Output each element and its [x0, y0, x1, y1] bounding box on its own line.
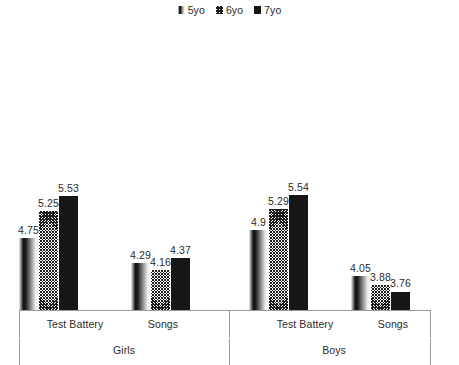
bar-5yo-group2[interactable] [131, 263, 150, 311]
bar-6yo-group1[interactable] [39, 211, 58, 311]
bar-6yo-group3[interactable] [269, 209, 288, 311]
axis-outer-label-2: Boys [274, 345, 394, 356]
bar-6yo-group2[interactable] [151, 270, 170, 311]
bar-chart: 5yo 6yo 7yo 4.755.255.534.294.164.374.95… [0, 0, 459, 365]
value-label-7yo-group3: 5.54 [283, 182, 314, 193]
bar-5yo-group3[interactable] [249, 230, 268, 311]
axis-band-divider [19, 338, 431, 339]
axis-inner-label-2: Songs [103, 319, 223, 330]
bar-7yo-group2[interactable] [171, 258, 190, 311]
plot-area: 4.755.255.534.294.164.374.95.295.544.053… [0, 20, 459, 311]
bar-5yo-group1[interactable] [19, 238, 38, 311]
legend-item-7yo[interactable]: 7yo [254, 5, 281, 16]
bar-7yo-group4[interactable] [391, 292, 410, 312]
solid-black-swatch-icon [254, 6, 261, 14]
legend-label-5yo: 5yo [188, 5, 205, 16]
legend-item-5yo[interactable]: 5yo [178, 5, 205, 16]
value-label-7yo-group2: 4.37 [165, 245, 196, 256]
value-label-7yo-group1: 5.53 [53, 183, 84, 194]
value-label-7yo-group4: 3.76 [385, 278, 416, 289]
category-axis-line [19, 310, 431, 311]
gradient-swatch-icon [178, 6, 185, 14]
bar-7yo-group3[interactable] [289, 195, 308, 311]
axis-inner-label-4: Songs [333, 319, 453, 330]
crosshatch-swatch-icon [216, 6, 223, 14]
legend-item-6yo[interactable]: 6yo [216, 5, 243, 16]
chart-legend: 5yo 6yo 7yo [0, 1, 459, 19]
legend-label-7yo: 7yo [264, 5, 281, 16]
legend-label-6yo: 6yo [226, 5, 243, 16]
axis-outer-label-1: Girls [64, 345, 184, 356]
bar-7yo-group1[interactable] [59, 196, 78, 311]
